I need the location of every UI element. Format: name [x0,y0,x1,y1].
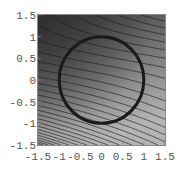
y-tick-label: 1.5 [16,10,36,22]
y-tick-label: -1.5 [10,140,36,152]
plot-area [38,15,165,145]
y-tick-label: -0.5 [10,97,36,109]
y-tick-label: 1 [29,32,36,44]
x-tick-label: -1.5 [25,151,51,163]
x-tick-label: -0.5 [67,151,93,163]
y-tick-label: 0.5 [16,53,36,65]
contour-plot: -1.5-1-0.500.511.5 1.510.50-0.5-1-1.5 [0,0,180,171]
x-tick-label: -1 [53,151,67,163]
y-axis: 1.510.50-0.5-1-1.5 [10,10,41,152]
x-tick-label: 1.5 [155,151,175,163]
y-tick-label: -1 [23,118,37,130]
x-tick-label: 0.5 [113,151,133,163]
x-tick-label: 0 [98,151,105,163]
x-tick-label: 1 [141,151,148,163]
y-tick-label: 0 [29,75,36,87]
